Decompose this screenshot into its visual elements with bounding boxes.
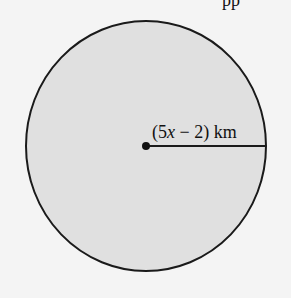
circle-diagram: pp (5x − 2) km	[0, 0, 291, 298]
radius-label: (5x − 2) km	[152, 122, 237, 143]
center-point	[142, 142, 150, 150]
cropped-top-text: pp	[222, 0, 240, 10]
